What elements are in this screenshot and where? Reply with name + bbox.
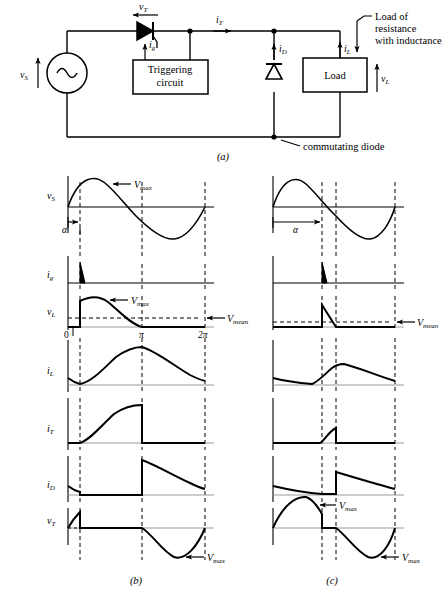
plot-it-b: iT	[47, 398, 214, 450]
panel-label-b: (b)	[130, 575, 143, 587]
diode-current-label: iD	[279, 43, 287, 56]
load-note-leader	[357, 16, 372, 52]
plot-id-b: iD	[47, 456, 214, 502]
axis-label-id: iD	[47, 479, 55, 492]
curve-it	[68, 405, 205, 443]
alpha-label-b: α	[62, 225, 68, 235]
axis-label-il: iL	[47, 365, 54, 378]
curve-vl	[273, 305, 395, 327]
figure-svg: vS vT ig iT Triggering circuit iD commut…	[0, 0, 447, 593]
curve-il	[273, 364, 395, 384]
vmean-label: Vmean	[417, 317, 439, 330]
junction-dot	[187, 28, 192, 33]
panel-label-c: (c)	[326, 575, 338, 587]
junction-dot	[271, 28, 276, 33]
plot-vl-b: Vmean Vmax vL 0 π 2π	[47, 290, 249, 340]
waveform-column-b: Vmax vS α ig Vmean Vmax vL 0	[47, 176, 249, 587]
plot-it-c	[273, 398, 404, 450]
diode-callout-line	[281, 140, 300, 146]
curve-id	[68, 460, 205, 495]
curve-vs	[273, 180, 395, 240]
plot-id-c	[273, 456, 404, 502]
triggering-circuit-line2: circuit	[157, 77, 184, 88]
load-note-line3: with inductance	[375, 35, 442, 46]
plot-vs-b: Vmax vS α	[47, 176, 214, 239]
source-voltage-label: vS	[20, 69, 28, 82]
load-current-label: iL	[344, 43, 351, 56]
vmax-label: Vmax	[207, 552, 226, 565]
gate-current-label: ig	[149, 39, 156, 52]
curve-id	[273, 472, 395, 494]
axis-label-vt: vT	[47, 515, 56, 528]
axis-label-vs: vS	[47, 190, 55, 203]
plot-vl-c: Vmean	[273, 290, 439, 330]
ac-source-icon	[47, 53, 87, 93]
diode-callout-label: commutating diode	[303, 141, 385, 152]
guide-lines-b	[80, 182, 205, 560]
curve-vt	[68, 512, 205, 558]
load-note-line1: Load of	[375, 11, 408, 22]
vmax-label: Vmax	[131, 295, 150, 308]
thyristor-current-label: iT	[216, 14, 224, 27]
thyristor-voltage-label: vT	[139, 1, 148, 14]
trigger-pulse	[80, 262, 85, 283]
load-note-line2: resistance	[375, 23, 417, 34]
vmax-label: Vmax	[134, 179, 153, 192]
tick-label-pi: π	[139, 330, 144, 340]
curve-it	[273, 428, 395, 443]
tick-label-2pi: 2π	[198, 330, 208, 340]
curve-il	[68, 347, 205, 384]
vmax-label-upper: Vmax	[339, 500, 358, 513]
alpha-label-c: α	[293, 225, 299, 235]
waveform-column-c: α Vmean	[273, 176, 439, 587]
load-box-label: Load	[324, 70, 346, 81]
vmean-label: Vmean	[227, 313, 249, 326]
trigger-pulse	[322, 262, 327, 283]
panel-label-a: (a)	[217, 151, 230, 163]
axis-label-ig: ig	[47, 269, 54, 282]
curve-vt	[273, 497, 395, 558]
axis-label-it: iT	[47, 423, 55, 436]
plot-vt-b: Vmax vT	[47, 508, 226, 565]
figure-thyristor-converter: vS vT ig iT Triggering circuit iD commut…	[0, 0, 447, 593]
axis-label-vl: vL	[47, 306, 55, 319]
plot-il-c	[273, 340, 404, 392]
plot-vt-c: Vmax Vmax	[273, 497, 421, 565]
triggering-circuit-line1: Triggering	[148, 64, 193, 75]
junction-dot	[271, 134, 276, 139]
plot-ig-b: ig	[47, 256, 214, 290]
plot-ig-c	[273, 256, 404, 290]
commutating-diode-icon	[266, 64, 282, 79]
vmax-label-lower: Vmax	[402, 552, 421, 565]
plot-il-b: iL	[47, 340, 214, 392]
plot-vs-c: α	[273, 176, 404, 239]
tick-label-zero: 0	[64, 330, 69, 340]
guide-lines-c	[322, 182, 395, 560]
load-voltage-label: vL	[381, 73, 389, 86]
